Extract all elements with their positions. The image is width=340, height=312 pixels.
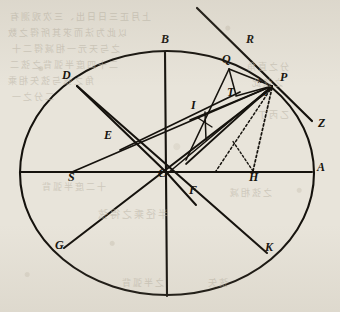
- point-label-D: D: [62, 69, 71, 81]
- point-label-Z: Z: [318, 117, 325, 129]
- chord-left-through-I: [120, 92, 240, 150]
- bleed-text-2: 之与天元一相减得二十: [10, 42, 120, 55]
- bleed-text-11: 半径乘之得弦: [96, 206, 168, 221]
- point-label-H: H: [249, 171, 258, 183]
- point-label-T: T: [227, 86, 234, 98]
- point-label-S: S: [68, 171, 75, 183]
- point-label-F: F: [189, 184, 197, 196]
- point-label-e: e: [264, 90, 268, 98]
- point-label-P: P: [280, 71, 287, 83]
- bleed-text-10: 之弦相减: [228, 186, 272, 199]
- bleed-text-0: 上月正三日日出、三次观测有: [8, 10, 151, 23]
- point-label-Q: Q: [222, 53, 231, 65]
- point-label-K: K: [265, 241, 273, 253]
- tick-mark-near-I: [205, 112, 206, 140]
- point-label-E: E: [104, 129, 112, 141]
- dotted-segment-near-H: [232, 140, 253, 171]
- point-label-I: I: [191, 99, 196, 111]
- point-label-R: R: [246, 33, 254, 45]
- bleed-text-13: 弦矢: [206, 276, 228, 289]
- bleed-text-1: 以此为法而求其所得之数: [6, 26, 127, 39]
- bleed-text-8: 乙丙丁: [256, 108, 289, 121]
- point-label-G: G: [55, 239, 64, 251]
- point-label-A: A: [317, 161, 325, 173]
- point-label-B: B: [161, 33, 169, 45]
- point-label-x: x: [258, 77, 262, 85]
- bleed-text-4: 角之弦与弦矢相乘: [6, 74, 94, 87]
- bleed-text-7: 之弦此: [250, 76, 283, 89]
- point-label-C: C: [158, 167, 166, 179]
- segment-D-E-C: [77, 86, 167, 173]
- bleed-text-12: 之半弧背: [120, 276, 164, 289]
- bleed-text-5: 二分之一: [10, 90, 54, 103]
